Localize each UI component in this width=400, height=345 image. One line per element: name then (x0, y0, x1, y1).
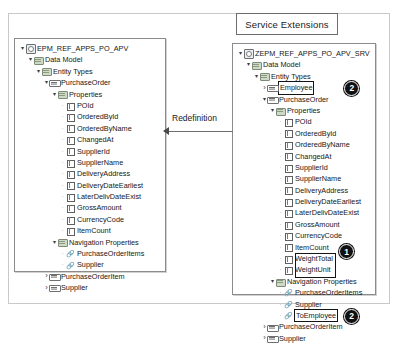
nav-icon (284, 300, 293, 309)
property-icon (284, 186, 293, 195)
badge-1-weight-properties: 1 (339, 244, 354, 259)
tree-row[interactable]: SupplierName (15, 157, 165, 168)
tree-row[interactable]: OrderedById (15, 111, 165, 122)
chevron-down-icon[interactable] (51, 237, 58, 248)
service-extensions-callout: Service Extensions (236, 13, 338, 35)
chevron-down-icon[interactable] (253, 71, 260, 82)
tree-row[interactable]: GrossAmount (15, 202, 165, 213)
tree-row-label: LaterDelivDateExist (77, 191, 141, 202)
tree-row[interactable]: WeightUnit (233, 264, 375, 275)
tree-row-label: CurrencyCode (295, 230, 342, 241)
tree-row[interactable]: ItemCount (15, 225, 165, 236)
tree-row-label: Supplier (61, 282, 88, 293)
property-icon (66, 147, 75, 156)
tree-leaf-marker (59, 191, 66, 202)
tree-row[interactable]: CurrencyCode (15, 214, 165, 225)
folder-icon (34, 56, 43, 65)
tree-row[interactable]: Navigation Properties (233, 276, 375, 287)
entity-icon (268, 323, 277, 332)
tree-row[interactable]: ChangedAt (15, 134, 165, 145)
tree-row-label: LaterDelivDateExist (295, 207, 359, 218)
tree-leaf-marker (277, 207, 284, 218)
tree-row[interactable]: POId (233, 116, 375, 127)
tree-row[interactable]: WeightTotal (233, 253, 375, 264)
tree-row[interactable]: EPM_REF_APPS_PO_APV (15, 43, 165, 54)
property-icon (284, 129, 293, 138)
tree-row-label: DeliveryAddress (295, 185, 348, 196)
tree-row[interactable]: POId (15, 100, 165, 111)
tree-row[interactable]: Supplier (233, 333, 375, 344)
property-icon (284, 152, 293, 161)
property-icon (284, 118, 293, 127)
tree-leaf-marker (59, 248, 66, 259)
tree-row-label: OrderedById (295, 128, 336, 139)
tree-row[interactable]: PurchaseOrderItem (15, 271, 165, 282)
tree-row[interactable]: SupplierName (233, 173, 375, 184)
tree-row[interactable]: Data Model (15, 54, 165, 65)
tree-row-label: EPM_REF_APPS_PO_APV (37, 43, 128, 54)
tree-leaf-marker (277, 253, 284, 264)
tree-leaf-marker (277, 139, 284, 150)
tree-row-label: ChangedAt (295, 151, 332, 162)
tree-row-label: WeightTotal (295, 253, 333, 264)
tree-leaf-marker (277, 128, 284, 139)
chevron-down-icon[interactable] (269, 276, 276, 287)
chevron-down-icon[interactable] (245, 59, 252, 70)
tree-row[interactable]: Properties (15, 89, 165, 100)
folder-icon (58, 238, 67, 247)
tree-row-label: PurchaseOrder (61, 77, 110, 88)
tree-row[interactable]: LaterDelivDateExist (15, 191, 165, 202)
chevron-down-icon[interactable] (27, 54, 34, 65)
tree-leaf-marker (59, 259, 66, 270)
chevron-down-icon[interactable] (237, 48, 244, 59)
tree-row[interactable]: Entity Types (15, 66, 165, 77)
tree-row[interactable]: Supplier (15, 282, 165, 293)
tree-row[interactable]: CurrencyCode (233, 230, 375, 241)
tree-row[interactable]: ZEPM_REF_APPS_PO_APV_SRV (233, 48, 375, 59)
property-icon (66, 181, 75, 190)
tree-row[interactable]: OrderedByName (233, 139, 375, 150)
tree-row[interactable]: Supplier (15, 259, 165, 270)
tree-row[interactable]: SupplierId (233, 162, 375, 173)
tree-row[interactable]: ChangedAt (233, 151, 375, 162)
entity-icon (268, 83, 277, 92)
chevron-down-icon[interactable] (51, 89, 58, 100)
folder-icon (42, 67, 51, 76)
tree-row[interactable]: PurchaseOrder (15, 77, 165, 88)
tree-row[interactable]: OrderedByName (15, 123, 165, 134)
tree-row[interactable]: DeliveryDateEarliest (233, 196, 375, 207)
tree-row[interactable]: SupplierId (15, 146, 165, 157)
tree-row-label: Properties (287, 105, 320, 116)
tree-row-label: ZEPM_REF_APPS_PO_APV_SRV (255, 48, 370, 59)
tree-row[interactable]: OrderedById (233, 128, 375, 139)
tree-row[interactable]: PurchaseOrderItems (233, 287, 375, 298)
tree-leaf-marker (59, 225, 66, 236)
property-icon (66, 192, 75, 201)
tree-leaf-marker (59, 146, 66, 157)
tree-row[interactable]: Data Model (233, 59, 375, 70)
tree-row-label: Supplier (77, 259, 104, 270)
tree-row[interactable]: Navigation Properties (15, 237, 165, 248)
tree-row-label: Navigation Properties (69, 237, 139, 248)
tree-row[interactable]: Properties (233, 105, 375, 116)
tree-row[interactable]: DeliveryAddress (15, 168, 165, 179)
tree-row[interactable]: DeliveryAddress (233, 185, 375, 196)
folder-icon (260, 72, 269, 81)
tree-row[interactable]: DeliveryDateEarliest (15, 180, 165, 191)
folder-icon (58, 90, 67, 99)
base-service-panel: EPM_REF_APPS_PO_APVData ModelEntity Type… (14, 38, 166, 272)
chevron-down-icon[interactable] (269, 105, 276, 116)
chevron-down-icon[interactable] (19, 43, 26, 54)
property-icon (66, 135, 75, 144)
tree-leaf-marker (277, 196, 284, 207)
tree-row[interactable]: PurchaseOrderItems (15, 248, 165, 259)
nav-icon (284, 288, 293, 297)
tree-row[interactable]: LaterDelivDateExist (233, 207, 375, 218)
service-extensions-label: Service Extensions (245, 19, 329, 30)
property-icon (284, 254, 293, 263)
base-service-tree[interactable]: EPM_REF_APPS_PO_APVData ModelEntity Type… (15, 39, 165, 294)
tree-row[interactable]: GrossAmount (233, 219, 375, 230)
tree-row-label: GrossAmount (77, 202, 122, 213)
root-icon (244, 49, 253, 58)
chevron-down-icon[interactable] (35, 66, 42, 77)
